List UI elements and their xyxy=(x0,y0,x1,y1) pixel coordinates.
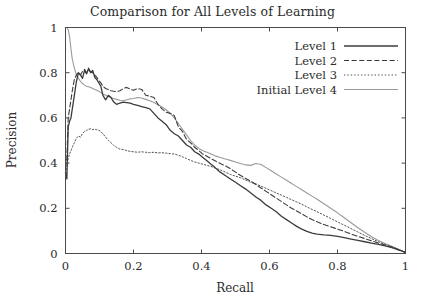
y-tick-label: 1 xyxy=(50,21,57,35)
x-tick-label: 0 xyxy=(62,259,69,273)
x-tick-label: 0.2 xyxy=(124,259,142,273)
y-tick-label: 0.2 xyxy=(39,201,57,215)
precision-recall-plot: 00.20.40.60.81 00.20.40.60.81 Recall Pre… xyxy=(0,0,425,298)
legend-item-label: Initial Level 4 xyxy=(256,83,337,97)
legend-item-label: Level 2 xyxy=(295,54,337,68)
series-layer xyxy=(66,28,406,253)
chart-legend: Level 1Level 2Level 3Initial Level 4 xyxy=(256,39,398,97)
y-axis-tick-labels: 00.20.40.60.81 xyxy=(39,21,57,261)
axis-ticks-layer xyxy=(66,28,406,254)
chart-figure: Comparison for All Levels of Learning 00… xyxy=(0,0,425,298)
y-axis-title: Precision xyxy=(5,112,19,169)
series-line xyxy=(66,129,406,253)
x-axis-title: Recall xyxy=(216,281,254,295)
y-tick-label: 0.4 xyxy=(39,156,57,170)
series-line xyxy=(66,28,406,253)
x-tick-label: 1 xyxy=(402,259,409,273)
y-tick-label: 0 xyxy=(50,247,57,261)
x-tick-label: 0.4 xyxy=(192,259,210,273)
legend-item-label: Level 1 xyxy=(295,39,337,53)
plot-frame-layer xyxy=(66,28,406,254)
y-tick-label: 0.6 xyxy=(39,111,57,125)
legend-item-label: Level 3 xyxy=(295,68,337,82)
x-tick-label: 0.6 xyxy=(260,259,278,273)
x-axis-tick-labels: 00.20.40.60.81 xyxy=(62,259,409,273)
x-tick-label: 0.8 xyxy=(328,259,346,273)
y-tick-label: 0.8 xyxy=(39,66,57,80)
